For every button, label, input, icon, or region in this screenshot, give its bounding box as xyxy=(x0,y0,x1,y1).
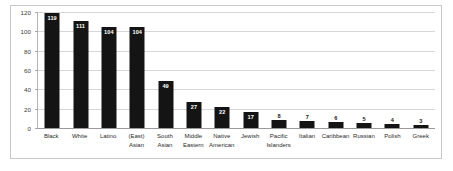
x-axis-category-label-line: Eastern xyxy=(179,141,207,150)
x-axis-category-label: Jewish xyxy=(236,132,264,141)
x-axis-category-label: MiddleEastern xyxy=(179,132,207,149)
y-axis: 020406080100120 xyxy=(11,12,33,128)
bar-value-label: 17 xyxy=(247,114,253,120)
x-axis-category-label: Italian xyxy=(293,132,321,141)
bar[interactable]: 104 xyxy=(130,27,145,128)
bar-slot: 119 xyxy=(38,12,66,128)
x-axis-category-label-line: Russian xyxy=(350,132,378,141)
bar-value-label: 111 xyxy=(76,23,85,29)
bar[interactable]: 8 xyxy=(272,120,287,128)
x-axis-category-label-line: Greek xyxy=(407,132,435,141)
x-axis-category-label-line: Latino xyxy=(94,132,122,141)
bar-slot: 6 xyxy=(322,12,350,128)
y-axis-tick-label: 0 xyxy=(27,125,31,132)
bar[interactable]: 6 xyxy=(328,122,343,128)
bar[interactable]: 27 xyxy=(186,102,201,128)
bar-slot: 5 xyxy=(350,12,378,128)
bar-value-label: 104 xyxy=(132,29,142,35)
y-axis-tickmark xyxy=(35,128,38,129)
x-axis-category-label-line: American xyxy=(208,141,236,150)
x-axis-category-label-line: Caribbean xyxy=(321,132,349,141)
x-axis-category-label-line: Native xyxy=(208,132,236,141)
x-axis-category-label: Polish xyxy=(378,132,406,141)
bar-series: 11911110410449272217876543 xyxy=(38,12,435,128)
x-axis-category-label: Caribbean xyxy=(321,132,349,141)
x-axis-category-label-line: Asian xyxy=(151,141,179,150)
bar-value-label: 5 xyxy=(362,116,365,122)
x-axis-category-label-line: Black xyxy=(37,132,65,141)
x-axis-category-label: NativeAmerican xyxy=(208,132,236,149)
bar[interactable]: 4 xyxy=(385,124,400,128)
x-axis-category-label: PacificIslanders xyxy=(264,132,292,149)
x-axis-category-label-line: South xyxy=(151,132,179,141)
chart-plot-wrapper: 020406080100120 119111104104492722178765… xyxy=(11,6,441,158)
x-axis-category-label: Russian xyxy=(350,132,378,141)
bar-slot: 17 xyxy=(237,12,265,128)
bar-value-label: 8 xyxy=(277,113,280,119)
bar-slot: 8 xyxy=(265,12,293,128)
bar-value-label: 4 xyxy=(391,117,394,123)
x-axis-category-label-line: Jewish xyxy=(236,132,264,141)
bar-value-label: 119 xyxy=(48,15,57,21)
bar[interactable]: 7 xyxy=(300,121,315,128)
x-axis-category-label-line: Middle xyxy=(179,132,207,141)
x-axis-category-label: SouthAsian xyxy=(151,132,179,149)
y-axis-tick-label: 60 xyxy=(24,67,31,74)
bar-value-label: 3 xyxy=(419,118,422,124)
plot-area: 11911110410449272217876543 xyxy=(37,12,435,128)
bar-value-label: 49 xyxy=(162,83,168,89)
x-axis-category-label: (East)Asian xyxy=(122,132,150,149)
bar-slot: 3 xyxy=(407,12,435,128)
bar[interactable]: 3 xyxy=(413,125,428,128)
x-axis-category-label: White xyxy=(65,132,93,141)
x-axis-category-label-line: Islanders xyxy=(264,141,292,150)
bar-slot: 104 xyxy=(123,12,151,128)
bar[interactable]: 17 xyxy=(243,112,258,128)
bar-value-label: 27 xyxy=(191,104,197,110)
x-axis-category-label-line: (East) xyxy=(122,132,150,141)
bar-slot: 49 xyxy=(151,12,179,128)
x-axis-category-label-line: Italian xyxy=(293,132,321,141)
x-axis-category-label: Black xyxy=(37,132,65,141)
axis-baseline xyxy=(38,128,435,129)
y-axis-tick-label: 100 xyxy=(20,28,31,35)
chart-frame: 020406080100120 119111104104492722178765… xyxy=(10,5,442,159)
bar-value-label: 6 xyxy=(334,115,337,121)
x-axis-category-label-line: Pacific xyxy=(264,132,292,141)
y-axis-tick-label: 20 xyxy=(24,105,31,112)
x-axis-category-label: Latino xyxy=(94,132,122,141)
x-axis-category-label-line: White xyxy=(65,132,93,141)
x-axis-category-label-line: Asian xyxy=(122,141,150,150)
x-axis-category-labels: BlackWhiteLatino(East)AsianSouthAsianMid… xyxy=(37,132,435,156)
bar[interactable]: 111 xyxy=(73,21,88,128)
bar-slot: 27 xyxy=(180,12,208,128)
x-axis-category-label-line: Polish xyxy=(378,132,406,141)
bar[interactable]: 49 xyxy=(158,81,173,128)
bar-value-label: 104 xyxy=(104,29,114,35)
bar[interactable]: 5 xyxy=(357,123,372,128)
bar-value-label: 22 xyxy=(219,109,225,115)
bar-slot: 7 xyxy=(293,12,321,128)
y-axis-tick-label: 120 xyxy=(20,9,31,16)
bar-slot: 104 xyxy=(95,12,123,128)
bar-slot: 22 xyxy=(208,12,236,128)
y-axis-tick-label: 40 xyxy=(24,86,31,93)
bar-slot: 111 xyxy=(66,12,94,128)
x-axis-category-label: Greek xyxy=(407,132,435,141)
bar[interactable]: 22 xyxy=(215,107,230,128)
bar-slot: 4 xyxy=(378,12,406,128)
bar-value-label: 7 xyxy=(306,114,309,120)
bar[interactable]: 104 xyxy=(101,27,116,128)
y-axis-tick-label: 80 xyxy=(24,47,31,54)
bar[interactable]: 119 xyxy=(45,13,60,128)
